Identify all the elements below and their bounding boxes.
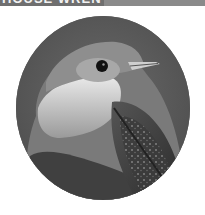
banner-title: HOUSE WREN <box>2 0 102 6</box>
bird-photo <box>16 16 190 200</box>
house-wren-illustration <box>16 16 190 200</box>
title-banner: HOUSE WREN <box>0 0 205 6</box>
